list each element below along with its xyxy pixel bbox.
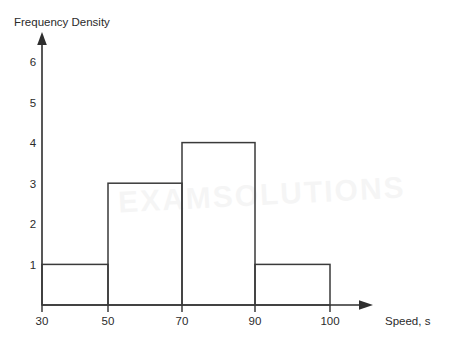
y-axis-title: Frequency Density (14, 16, 110, 28)
x-axis-title: Speed, s (385, 315, 431, 327)
x-tick-label: 70 (176, 315, 189, 327)
x-tick-label: 50 (102, 315, 115, 327)
x-axis-tick-marks (42, 305, 330, 312)
x-axis-tick-labels: 30 50 70 90 100 (36, 315, 340, 327)
arrow-right-icon (359, 300, 373, 310)
y-tick-label: 1 (30, 259, 36, 271)
y-tick-label: 6 (30, 56, 36, 68)
histogram-bar (42, 264, 108, 305)
y-tick-label: 5 (30, 97, 36, 109)
histogram-chart: EXAMSOLUTIONS Frequency Density 1 2 3 4 … (0, 0, 455, 343)
x-tick-label: 30 (36, 315, 49, 327)
y-tick-label: 3 (30, 178, 36, 190)
histogram-bar (255, 264, 330, 305)
histogram-bar (108, 183, 182, 305)
y-axis-tick-labels: 1 2 3 4 5 6 (30, 56, 37, 271)
arrow-up-icon (37, 32, 47, 45)
chart-canvas: Frequency Density 1 2 3 4 5 6 (0, 0, 455, 343)
x-tick-label: 90 (249, 315, 262, 327)
y-tick-label: 2 (30, 218, 36, 230)
histogram-bars (42, 143, 330, 305)
histogram-bar (182, 143, 255, 305)
x-tick-label: 100 (320, 315, 339, 327)
y-tick-label: 4 (30, 137, 37, 149)
